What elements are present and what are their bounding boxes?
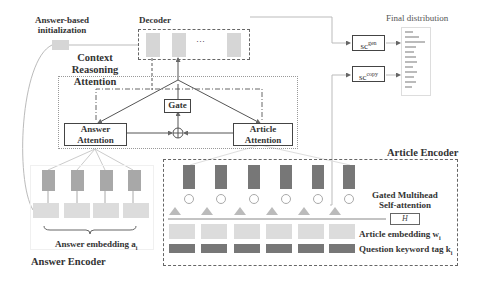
article-encoder-label: Article Encoder [387, 147, 458, 158]
answer-embedding-sub: i [136, 245, 138, 251]
answer-attention-line2: Attention [65, 135, 126, 146]
article-embedding-sub: i [439, 235, 441, 241]
sc-copy-box: sccopy [352, 66, 385, 82]
gate-circle-3 [249, 194, 259, 204]
article-emb-3 [234, 224, 260, 239]
answer-init-label: Answer-based initialization [33, 15, 91, 35]
attention-triangle-4 [266, 207, 278, 215]
answer-emb-3 [93, 203, 119, 218]
article-output-3 [248, 165, 260, 189]
context-reasoning-line1: Context Reasoning [54, 52, 136, 76]
article-attention-line2: Attention [234, 135, 292, 146]
article-output-6 [343, 165, 355, 189]
answer-init-line1: Answer-based [33, 15, 91, 25]
gate-circle-2 [216, 194, 226, 204]
answer-hidden-3 [100, 170, 113, 191]
answer-emb-4 [123, 203, 149, 218]
gate-circle-4 [281, 194, 291, 204]
answer-hidden-1 [42, 170, 55, 191]
attention-triangle-1 [169, 207, 181, 215]
article-embedding-text: Article embedding w [359, 229, 439, 239]
answer-encoder-label: Answer Encoder [31, 256, 106, 267]
decoder-cell-n [227, 33, 241, 57]
article-emb-2 [201, 224, 227, 239]
decoder-cell-1 [146, 33, 160, 57]
article-output-2 [215, 165, 227, 189]
answer-embedding-text: Answer embedding a [55, 239, 136, 249]
attention-triangle-6 [329, 207, 341, 215]
gate-circle-1 [184, 194, 194, 204]
question-keyword-text: Question keyword tag k [359, 244, 451, 254]
sc-gen-base: sc [360, 41, 368, 51]
answer-attention-box: Answer Attention [64, 123, 127, 146]
decoder-label: Decoder [139, 15, 171, 25]
answer-emb-2 [64, 203, 90, 218]
sc-gen-box: scgen [352, 35, 385, 51]
question-keyword-sub: i [451, 250, 453, 256]
answer-attention-line1: Answer [65, 124, 126, 135]
answer-init-line2: initialization [33, 25, 91, 35]
decoder-ellipsis: ··· [196, 36, 205, 46]
article-emb-4 [266, 224, 292, 239]
gate-circle-6 [344, 194, 354, 204]
article-emb-5 [298, 224, 324, 239]
article-embedding-label: Article embedding wi [359, 229, 441, 243]
gated-multihead-line2: Self-attention [372, 200, 438, 210]
decoder-cell-2 [172, 33, 186, 57]
gate-box: Gate [164, 99, 191, 113]
decoder-box: ··· [138, 29, 250, 60]
init-cell [52, 40, 69, 50]
final-distribution-bars [401, 27, 431, 96]
answer-embedding-label: Answer embedding ai [55, 239, 138, 253]
attention-triangle-2 [201, 207, 213, 215]
gated-multihead-line1: Gated Multihead [372, 190, 438, 200]
answer-hidden-4 [128, 170, 141, 191]
article-output-1 [183, 165, 195, 189]
article-output-4 [280, 165, 292, 189]
keyword-tag-6 [329, 244, 355, 253]
keyword-tag-5 [298, 244, 324, 253]
attention-triangle-3 [234, 207, 246, 215]
gated-multihead-label: Gated Multihead Self-attention [372, 190, 438, 210]
answer-hidden-2 [71, 170, 84, 191]
article-attention-line1: Article [234, 124, 292, 135]
sc-copy-sup: copy [366, 71, 378, 77]
final-distribution-label: Final distribution [386, 13, 448, 23]
question-keyword-label: Question keyword tag ki [359, 244, 452, 258]
gate-circle-5 [313, 194, 323, 204]
article-output-5 [312, 165, 324, 189]
keyword-tag-4 [266, 244, 292, 253]
keyword-tag-1 [169, 244, 195, 253]
answer-emb-1 [33, 203, 59, 218]
sc-gen-sup: gen [368, 40, 377, 46]
article-emb-6 [329, 224, 355, 239]
keyword-tag-3 [234, 244, 260, 253]
attention-triangle-5 [298, 207, 310, 215]
article-emb-1 [169, 224, 195, 239]
h-box: H [390, 213, 420, 225]
article-attention-box: Article Attention [233, 123, 293, 146]
keyword-tag-2 [201, 244, 227, 253]
